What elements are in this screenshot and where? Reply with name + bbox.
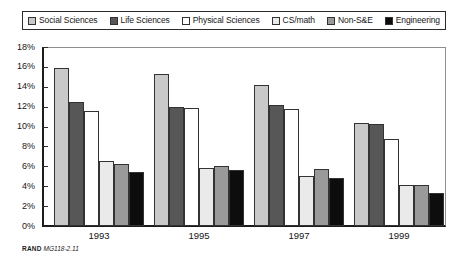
legend-item-label: Physical Sciences [193,16,260,25]
y-axis-tick-label: 14% [17,82,35,91]
legend-swatch-icon [110,17,118,25]
legend-physical-sciences[interactable]: Physical Sciences [182,16,260,25]
source-brand: RAND [22,245,42,252]
legend-item-label: Engineering [396,16,440,25]
bar[interactable] [384,139,399,226]
bar[interactable] [399,185,414,226]
bar[interactable] [369,124,384,226]
y-axis: 18%16%14%12%10%8%6%4%2%0% [0,40,40,236]
bar[interactable] [284,109,299,226]
legend-engineering[interactable]: Engineering [385,16,440,25]
figure-source-note: RANDMG118-2.11 [22,245,79,253]
legend-swatch-icon [182,17,190,25]
legend-item-label: CS/math [283,16,315,25]
bar[interactable] [229,170,244,226]
y-axis-tick-label: 12% [17,102,35,111]
x-axis-tick-label: 1999 [344,230,454,241]
x-axis-labels: 1993199519971999 [44,230,446,246]
legend-swatch-icon [327,17,335,25]
bar-group [354,47,444,226]
y-axis-tick-label: 8% [22,142,35,151]
y-axis-tick-label: 10% [17,122,35,131]
chart-legend: Social SciencesLife SciencesPhysical Sci… [22,11,446,30]
bar[interactable] [169,107,184,226]
y-axis-tick-label: 18% [17,43,35,52]
legend-item-label: Life Sciences [121,16,170,25]
legend-life-sciences[interactable]: Life Sciences [110,16,170,25]
bar-group [154,47,244,226]
bar[interactable] [299,176,314,226]
bar[interactable] [114,164,129,226]
y-axis-tick-label: 0% [22,222,35,231]
bar[interactable] [154,74,169,226]
x-axis-tick-label: 1997 [244,230,354,241]
legend-non-se[interactable]: Non-S&E [327,16,373,25]
chart-figure: Social SciencesLife SciencesPhysical Sci… [0,0,469,262]
x-axis-tick-label: 1993 [44,230,154,241]
bar-group [54,47,144,226]
y-axis-tick-label: 16% [17,62,35,71]
bar[interactable] [254,85,269,226]
bar[interactable] [99,161,114,226]
bars-layer [44,47,446,226]
legend-swatch-icon [385,17,393,25]
bar[interactable] [184,108,199,226]
bar[interactable] [69,102,84,226]
bar[interactable] [329,178,344,226]
legend-item-label: Social Sciences [39,16,98,25]
legend-swatch-icon [28,17,36,25]
x-axis-tick-label: 1995 [144,230,254,241]
legend-swatch-icon [272,17,280,25]
bar[interactable] [214,166,229,226]
bar[interactable] [84,111,99,226]
bar[interactable] [354,123,369,226]
bar-group [254,47,344,226]
bar[interactable] [414,185,429,226]
y-axis-tick-label: 2% [22,202,35,211]
legend-cs-math[interactable]: CS/math [272,16,315,25]
bar[interactable] [54,68,69,226]
bar[interactable] [199,168,214,226]
y-axis-tick-label: 6% [22,162,35,171]
legend-item-label: Non-S&E [338,16,373,25]
bar[interactable] [129,172,144,226]
bar[interactable] [269,105,284,226]
source-code: MG118-2.11 [44,245,79,252]
bar[interactable] [429,193,444,226]
legend-social-sciences[interactable]: Social Sciences [28,16,98,25]
bar[interactable] [314,169,329,226]
y-axis-tick-label: 4% [22,182,35,191]
